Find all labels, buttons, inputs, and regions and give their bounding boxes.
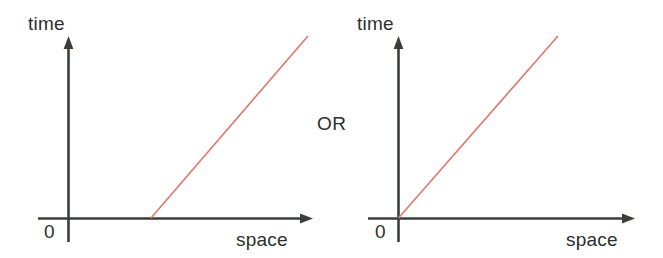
right-space-axis-label: space [566,230,618,249]
right-origin-label: 0 [375,222,386,241]
right-worldline [399,36,559,218]
right-time-axis-label: time [357,14,394,33]
right-diagram-canvas [0,0,663,258]
right-time-axis [394,36,404,242]
right-space-axis [368,214,635,224]
space-time-diagram-figure: time space 0 OR time space 0 [0,0,663,258]
